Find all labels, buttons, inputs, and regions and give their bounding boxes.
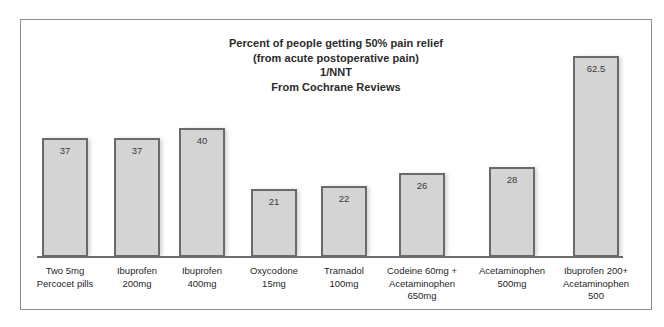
plot-area: 3737402122262862.5 Two 5mgPercocet pills… [21,20,653,311]
category-label: Two 5mgPercocet pills [29,265,101,290]
bar: 26 [399,173,445,257]
chart-figure: Percent of people getting 50% pain relie… [20,19,652,310]
category-label-line: Tramadol [305,265,383,278]
category-label-line: 650mg [377,290,467,303]
bar-value-label: 22 [323,193,365,204]
category-label-line: Acetaminophen [556,278,636,291]
category-label: Ibuprofen400mg [166,265,238,290]
bar-value-label: 37 [44,145,86,156]
category-label-line: 15mg [239,278,309,291]
category-label: Ibuprofen 200+Acetaminophen500 [556,265,636,303]
category-label: Oxycodone15mg [239,265,309,290]
category-label-line: Ibuprofen [103,265,171,278]
bar-value-label: 26 [401,180,443,191]
bar: 22 [321,186,367,257]
bar-value-label: 62.5 [575,63,617,74]
category-label: Tramadol100mg [305,265,383,290]
category-label-line: Acetaminophen [470,265,554,278]
bar-value-label: 28 [491,174,533,185]
category-label-line: Percocet pills [29,278,101,291]
category-label: Acetaminophen500mg [470,265,554,290]
bar-value-label: 37 [116,145,158,156]
category-label-line: Ibuprofen 200+ [556,265,636,278]
category-label-line: 200mg [103,278,171,291]
category-label-line: Oxycodone [239,265,309,278]
category-label-line: Acetaminophen [377,278,467,291]
category-label-line: Codeine 60mg + [377,265,467,278]
bar-value-label: 40 [181,135,223,146]
bar: 62.5 [573,56,619,257]
category-label-line: 500 [556,290,636,303]
bar: 28 [489,167,535,257]
category-label: Codeine 60mg +Acetaminophen650mg [377,265,467,303]
bar-value-label: 21 [253,196,295,207]
category-label: Ibuprofen200mg [103,265,171,290]
bar: 40 [179,128,225,257]
bar: 37 [114,138,160,257]
category-label-line: Two 5mg [29,265,101,278]
category-label-line: Ibuprofen [166,265,238,278]
bar: 21 [251,189,297,257]
bar: 37 [42,138,88,257]
category-label-line: 100mg [305,278,383,291]
category-label-line: 500mg [470,278,554,291]
category-label-line: 400mg [166,278,238,291]
